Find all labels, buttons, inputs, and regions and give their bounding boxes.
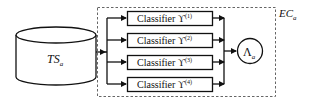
- svg-text:Classifier ϒ(4): Classifier ϒ(4): [137, 79, 192, 90]
- combiner-node: Λa: [238, 39, 263, 64]
- classifier-2: Classifier ϒ(2): [128, 34, 213, 48]
- ensemble-label: ECa: [278, 7, 297, 22]
- svg-text:Classifier ϒ(3): Classifier ϒ(3): [137, 57, 192, 68]
- svg-text:Classifier ϒ(2): Classifier ϒ(2): [137, 35, 192, 46]
- svg-text:Classifier ϒ(1): Classifier ϒ(1): [137, 13, 192, 24]
- data-store-cylinder: TSa: [16, 27, 96, 85]
- classifier-3: Classifier ϒ(3): [128, 56, 213, 70]
- ensemble-diagram: ECa TSa Classifier ϒ(1) Classifier ϒ(2) …: [0, 0, 313, 104]
- classifier-1: Classifier ϒ(1): [128, 12, 213, 26]
- classifier-4: Classifier ϒ(4): [128, 78, 213, 92]
